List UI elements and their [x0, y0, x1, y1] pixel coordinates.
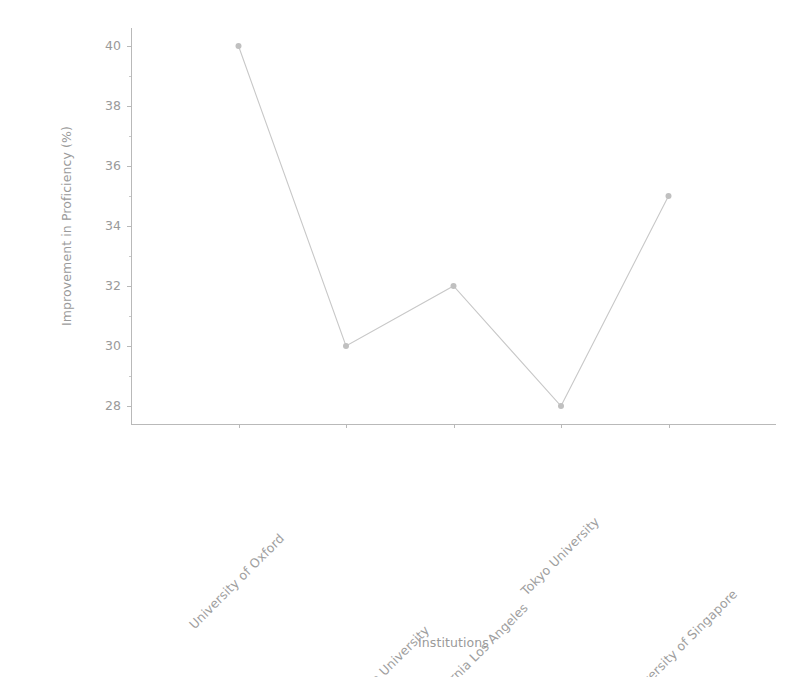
y-tick-label: 32	[105, 278, 121, 293]
y-tick-mark	[127, 406, 131, 407]
data-line	[239, 46, 669, 406]
y-axis-label-text: Improvement in Proficiency (%)	[59, 126, 74, 326]
data-point	[666, 193, 672, 199]
y-minor-tick-mark	[129, 316, 132, 317]
y-minor-tick-mark	[129, 136, 132, 137]
x-tick-label: University of Oxford	[276, 440, 377, 541]
y-axis-spine	[131, 28, 132, 424]
data-point	[343, 343, 349, 349]
data-markers	[236, 43, 672, 409]
y-minor-tick-mark	[129, 196, 132, 197]
data-point	[558, 403, 564, 409]
y-minor-tick-mark	[129, 256, 132, 257]
y-tick-mark	[127, 46, 131, 47]
y-tick-label: 40	[105, 38, 121, 53]
x-axis-label: Institutions	[131, 635, 776, 650]
x-tick-mark	[561, 424, 562, 428]
y-tick-label: 36	[105, 158, 121, 173]
y-axis-label: Improvement in Proficiency (%)	[56, 28, 76, 424]
y-tick-label: 30	[105, 338, 121, 353]
y-tick-label: 34	[105, 218, 121, 233]
y-tick-mark	[127, 346, 131, 347]
x-tick-mark	[239, 424, 240, 428]
data-point	[236, 43, 242, 49]
y-tick-label: 28	[105, 398, 121, 413]
y-minor-tick-mark	[129, 376, 132, 377]
y-tick-mark	[127, 166, 131, 167]
y-tick-mark	[127, 106, 131, 107]
y-tick-mark	[127, 226, 131, 227]
chart-figure: Improvement in Proficiency (%) 283032343…	[0, 0, 791, 677]
y-tick-label: 38	[105, 98, 121, 113]
x-tick-label: University of California Los Angeles	[520, 440, 691, 611]
x-tick-label: National University of Singapore	[729, 440, 791, 597]
x-tick-mark	[346, 424, 347, 428]
data-point	[451, 283, 457, 289]
y-tick-mark	[127, 286, 131, 287]
y-minor-tick-mark	[129, 76, 132, 77]
x-tick-mark	[454, 424, 455, 428]
x-tick-mark	[669, 424, 670, 428]
